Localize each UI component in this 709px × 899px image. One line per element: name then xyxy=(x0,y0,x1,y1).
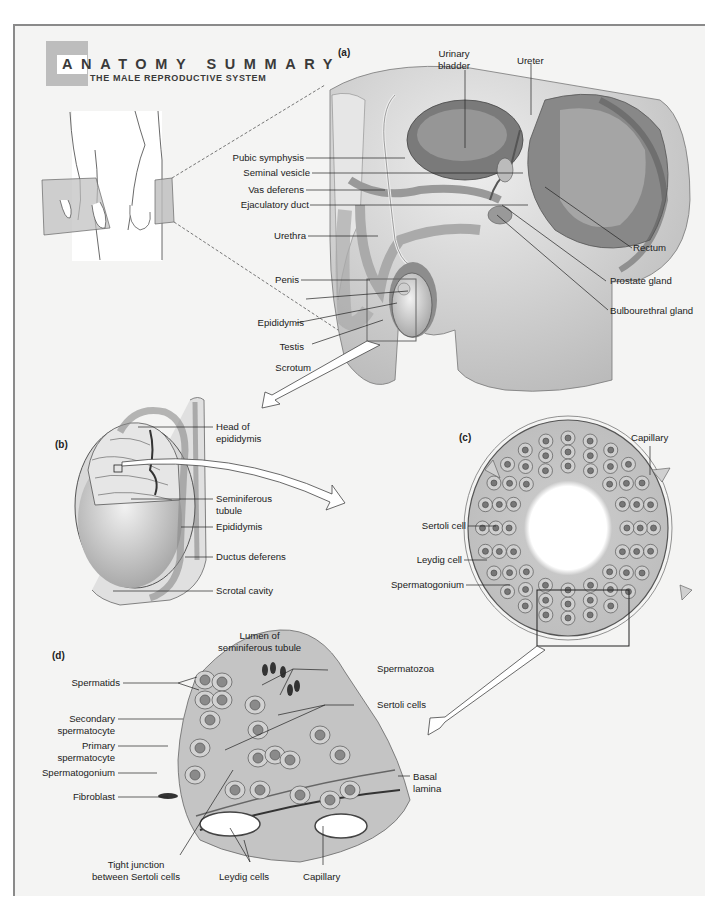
cell-nucleus xyxy=(505,461,511,467)
label-bulbourethral-gland: Bulbourethral gland xyxy=(610,305,693,317)
cell-nucleus xyxy=(543,597,549,603)
cell-nucleus xyxy=(505,589,511,595)
cell-nucleus xyxy=(523,481,529,487)
cell-nucleus xyxy=(315,730,325,740)
cell-nucleus xyxy=(325,795,335,805)
label-spermatogonium-d: Spermatogonium xyxy=(42,767,115,779)
tubule-cross-section xyxy=(464,416,692,646)
cell-nucleus xyxy=(648,502,654,508)
label-basal-lamina: Basal lamina xyxy=(413,771,441,794)
label-capillary-d: Capillary xyxy=(303,871,340,883)
label-scrotum: Scrotum xyxy=(275,362,311,374)
label-testis: Testis xyxy=(279,341,304,353)
cell-nucleus xyxy=(543,453,549,459)
label-vas-deferens: Vas deferens xyxy=(248,184,304,196)
label-capillary-c: Capillary xyxy=(631,432,668,444)
cell-nucleus xyxy=(587,612,593,618)
label-epididymis-b: Epididymis xyxy=(216,521,262,533)
anatomy-illustration xyxy=(0,0,709,899)
cell-nucleus xyxy=(587,453,593,459)
cell-nucleus xyxy=(200,695,210,705)
label-ureter: Ureter xyxy=(517,55,544,67)
cell-nucleus xyxy=(634,502,640,508)
cell-nucleus xyxy=(250,700,260,710)
cell-nucleus xyxy=(607,464,613,470)
tubule-wall-detail xyxy=(158,630,410,862)
cell-nucleus xyxy=(230,785,240,795)
label-scrotal-cavity: Scrotal cavity xyxy=(216,585,273,597)
cell-nucleus xyxy=(217,677,227,687)
label-seminiferous-tubule: Seminiferous tubule xyxy=(216,493,272,516)
cell-nucleus xyxy=(648,548,654,554)
cell-nucleus xyxy=(565,449,571,455)
zoom-arrow-c-to-d xyxy=(428,646,545,735)
cell-nucleus xyxy=(542,468,548,474)
label-lumen: Lumen of seminiferous tubule xyxy=(218,630,301,653)
cell-nucleus xyxy=(588,468,594,474)
cell-nucleus xyxy=(607,586,613,592)
label-pubic-symphysis: Pubic symphysis xyxy=(233,152,304,164)
cell-nucleus xyxy=(619,549,625,555)
cell-nucleus xyxy=(588,582,594,588)
label-sertoli-cell: Sertoli cell xyxy=(422,520,466,532)
cell-nucleus xyxy=(634,548,640,554)
label-head-of-epididymis: Head of epididymis xyxy=(216,421,261,444)
cell-nucleus xyxy=(253,753,263,763)
cell-nucleus xyxy=(482,502,488,508)
cell-nucleus xyxy=(623,570,629,576)
label-spermatozoa: Spermatozoa xyxy=(377,663,434,675)
cell-nucleus xyxy=(345,785,355,795)
label-leydig-cell: Leydig cell xyxy=(417,554,462,566)
cell-nucleus xyxy=(637,525,643,531)
cell-nucleus xyxy=(506,525,512,531)
label-primary-spermatocyte: Primary spermatocyte xyxy=(57,740,115,763)
cell-nucleus xyxy=(491,570,497,576)
cell-nucleus xyxy=(587,597,593,603)
cell-nucleus xyxy=(522,447,528,453)
cell-nucleus xyxy=(496,548,502,554)
label-leydig-cells: Leydig cells xyxy=(219,871,269,883)
cell-nucleus xyxy=(607,481,613,487)
panel-tag-a: (a) xyxy=(338,47,350,58)
label-ejaculatory-duct: Ejaculatory duct xyxy=(241,199,309,211)
cell-nucleus xyxy=(205,715,215,725)
cell-nucleus xyxy=(295,790,305,800)
cell-nucleus xyxy=(625,461,631,467)
label-spermatids: Spermatids xyxy=(71,677,120,689)
label-ductus-deferens: Ductus deferens xyxy=(216,551,286,563)
testis-section xyxy=(75,398,206,606)
cell-nucleus xyxy=(565,601,571,607)
label-fibroblast: Fibroblast xyxy=(73,791,115,803)
label-spermatogonium-c: Spermatogonium xyxy=(391,579,464,591)
label-sertoli-cells: Sertoli cells xyxy=(377,699,426,711)
cell-nucleus xyxy=(607,569,613,575)
cell-nucleus xyxy=(587,438,593,444)
label-tight-junction: Tight junction between Sertoli cells xyxy=(92,859,180,882)
cell-nucleus xyxy=(255,785,265,795)
cell-nucleus xyxy=(270,750,280,760)
label-secondary-spermatocyte: Secondary spermatocyte xyxy=(57,713,115,736)
panel-tag-c: (c) xyxy=(459,432,471,443)
cell-nucleus xyxy=(491,480,497,486)
sagittal-section xyxy=(330,66,690,391)
cell-nucleus xyxy=(522,603,528,609)
cell-nucleus xyxy=(639,570,645,576)
cell-nucleus xyxy=(639,480,645,486)
cell-nucleus xyxy=(523,586,529,592)
cell-nucleus xyxy=(608,603,614,609)
label-rectum: Rectum xyxy=(633,242,666,254)
cell-nucleus xyxy=(624,525,630,531)
cell-nucleus xyxy=(608,447,614,453)
label-urinary-bladder: Urinary bladder xyxy=(438,48,470,71)
cell-nucleus xyxy=(507,570,513,576)
panel-tag-b: (b) xyxy=(55,439,68,450)
cell-nucleus xyxy=(496,502,502,508)
cell-nucleus xyxy=(285,755,295,765)
cell-nucleus xyxy=(542,582,548,588)
cell-nucleus xyxy=(651,525,657,531)
cell-nucleus xyxy=(507,480,513,486)
cell-nucleus xyxy=(511,501,517,507)
cell-nucleus xyxy=(523,464,529,470)
label-urethra: Urethra xyxy=(274,230,306,242)
cell-nucleus xyxy=(190,770,200,780)
